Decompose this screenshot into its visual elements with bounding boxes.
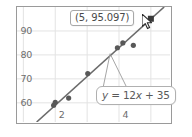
chart-screenshot: 90 80 70 60 2 4 (5, 95.097) y = 12x + 35 — [0, 0, 192, 137]
x-axis-tick-label: 4 — [123, 109, 129, 120]
y-axis-tick-label: 90 — [21, 25, 33, 36]
data-point-tooltip: (5, 95.097) — [70, 10, 134, 26]
equation-equals: = — [108, 89, 123, 101]
equation-callout: y = 12x + 35 — [96, 86, 176, 105]
y-axis-tick-label: 70 — [21, 73, 33, 84]
equation-coefficient: 12 — [123, 89, 136, 101]
x-axis-tick-label: 2 — [59, 109, 65, 120]
y-axis-tick-label: 60 — [21, 97, 33, 108]
equation-constant: + 35 — [142, 89, 170, 101]
arrow-cursor-icon — [142, 14, 158, 32]
y-axis-tick-label: 80 — [21, 49, 33, 60]
